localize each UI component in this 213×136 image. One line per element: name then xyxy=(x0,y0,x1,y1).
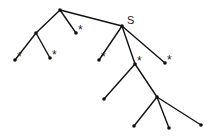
tree-edge xyxy=(104,64,135,99)
tree-nodes: ***S*** xyxy=(13,8,203,130)
star-marker-icon: * xyxy=(167,53,172,67)
node-label: S xyxy=(127,14,134,26)
tree-edge xyxy=(134,97,157,126)
star-marker-icon: * xyxy=(17,50,22,64)
tree-node xyxy=(34,31,38,35)
star-marker-icon: * xyxy=(78,23,83,37)
star-marker-icon: * xyxy=(52,48,57,62)
tree-node xyxy=(102,97,106,101)
tree-edge xyxy=(157,97,169,128)
tree-edge xyxy=(135,64,157,97)
tree-edge xyxy=(157,97,201,125)
tree-edges xyxy=(15,10,201,128)
tree-diagram: ***S*** xyxy=(0,0,213,136)
tree-node xyxy=(155,95,159,99)
tree-edge xyxy=(36,10,60,33)
tree-node xyxy=(199,123,203,127)
tree-node xyxy=(58,8,62,12)
tree-edge xyxy=(36,33,50,58)
tree-node xyxy=(120,24,124,28)
star-marker-icon: * xyxy=(137,54,142,68)
tree-node xyxy=(167,126,171,130)
tree-node xyxy=(132,124,136,128)
star-marker-icon: * xyxy=(101,50,106,64)
